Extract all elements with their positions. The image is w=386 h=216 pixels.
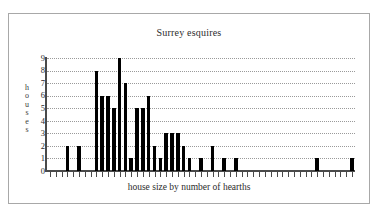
y-tick-label: 3 (31, 129, 45, 138)
x-tick-mark (96, 172, 97, 177)
x-tick-mark (67, 172, 68, 177)
y-tick-label: 6 (31, 91, 45, 100)
bar (66, 146, 70, 171)
x-tick-mark (160, 172, 161, 177)
x-tick-mark (137, 172, 138, 177)
x-tick-mark (340, 172, 341, 177)
x-tick-mark (323, 172, 324, 177)
plot-area (47, 58, 355, 171)
x-tick-mark (259, 172, 260, 177)
bar (95, 71, 99, 171)
x-tick-mark (265, 172, 266, 177)
x-tick-mark (85, 172, 86, 177)
bar (77, 146, 81, 171)
bar (135, 108, 139, 171)
bar (170, 133, 174, 171)
bar (159, 158, 163, 171)
x-tick-mark (195, 172, 196, 177)
x-tick-mark (352, 172, 353, 177)
bar (199, 158, 203, 171)
x-tick-mark (207, 172, 208, 177)
x-tick-mark (178, 172, 179, 177)
x-tick-mark (102, 172, 103, 177)
y-tick-label: 9 (31, 54, 45, 63)
bar (350, 158, 354, 171)
x-tick-mark (79, 172, 80, 177)
x-tick-mark (288, 172, 289, 177)
bar (234, 158, 238, 171)
x-tick-mark (311, 172, 312, 177)
x-tick-mark (335, 172, 336, 177)
bar (100, 96, 104, 171)
x-tick-mark (282, 172, 283, 177)
bar (211, 146, 215, 171)
bar (129, 158, 133, 171)
y-axis-ticks: 0123456789 (29, 58, 45, 171)
x-tick-mark (317, 172, 318, 177)
x-tick-mark (91, 172, 92, 177)
x-tick-mark (120, 172, 121, 177)
y-tick-label: 2 (31, 142, 45, 151)
y-tick-label: 8 (31, 66, 45, 75)
x-tick-mark (73, 172, 74, 177)
x-tick-mark (131, 172, 132, 177)
x-tick-mark (236, 172, 237, 177)
x-tick-mark (271, 172, 272, 177)
x-tick-mark (125, 172, 126, 177)
x-tick-mark (201, 172, 202, 177)
bar (147, 96, 151, 171)
x-tick-mark (62, 172, 63, 177)
bar (118, 58, 122, 171)
x-tick-mark (329, 172, 330, 177)
x-tick-mark (224, 172, 225, 177)
x-tick-mark (50, 172, 51, 177)
x-tick-mark (306, 172, 307, 177)
x-tick-mark (218, 172, 219, 177)
bar (164, 133, 168, 171)
bar (124, 83, 128, 171)
bar (112, 108, 116, 171)
x-tick-mark (56, 172, 57, 177)
x-tick-mark (108, 172, 109, 177)
x-tick-mark (149, 172, 150, 177)
x-tick-mark (253, 172, 254, 177)
bar (315, 158, 319, 171)
bar (222, 158, 226, 171)
x-tick-mark (242, 172, 243, 177)
y-tick-label: 4 (31, 117, 45, 126)
x-tick-mark (247, 172, 248, 177)
x-tick-mark (294, 172, 295, 177)
x-tick-mark (114, 172, 115, 177)
y-tick-label: 0 (31, 167, 45, 176)
figure-canvas: Surrey esquires houses 0123456789 house … (0, 0, 386, 216)
bar (106, 96, 110, 171)
x-tick-mark (346, 172, 347, 177)
y-tick-label: 7 (31, 79, 45, 88)
y-tick-label: 5 (31, 104, 45, 113)
x-tick-mark (172, 172, 173, 177)
x-tick-mark (155, 172, 156, 177)
bar-series (47, 58, 355, 171)
x-tick-mark (166, 172, 167, 177)
bar (182, 146, 186, 171)
bar (188, 158, 192, 171)
x-axis-ticks (47, 172, 355, 178)
y-tick-label: 1 (31, 154, 45, 163)
x-tick-mark (189, 172, 190, 177)
bar (141, 108, 145, 171)
bar (153, 146, 157, 171)
bar (176, 133, 180, 171)
x-tick-mark (230, 172, 231, 177)
x-tick-mark (184, 172, 185, 177)
chart-title: Surrey esquires (8, 27, 370, 38)
x-axis-label: house size by number of hearths (8, 182, 370, 192)
x-tick-mark (277, 172, 278, 177)
x-tick-mark (300, 172, 301, 177)
x-tick-mark (213, 172, 214, 177)
x-tick-mark (143, 172, 144, 177)
